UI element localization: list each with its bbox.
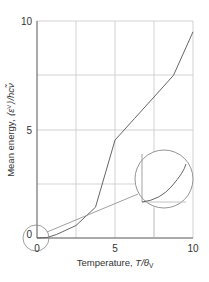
x-axis-label-sub: V: [149, 262, 154, 269]
x-axis-label-main: Temperature,: [77, 257, 136, 268]
y-axis-label-rest: ⟩/hcν̃: [5, 83, 16, 105]
x-tick-10: 10: [187, 243, 199, 254]
y-tick-5: 5: [26, 125, 32, 136]
x-tick-5: 5: [112, 243, 118, 254]
y-tick-0: 0: [26, 229, 32, 240]
y-tick-10: 10: [21, 16, 33, 27]
chart: 10 5 0 0 5 10 Temperature, T/θV Mean ene…: [0, 0, 209, 282]
y-axis-label-main: Mean energy,: [5, 117, 16, 177]
inset-circle: [135, 150, 193, 208]
x-axis-label: Temperature, T/θV: [77, 257, 154, 269]
x-axis-label-var: T/θ: [135, 257, 149, 268]
inset: [135, 150, 193, 238]
y-axis-label: Mean energy, ⟨εV⟩/hcν̃: [5, 83, 16, 177]
x-tick-0: 0: [34, 243, 40, 254]
connector-line: [47, 194, 138, 232]
